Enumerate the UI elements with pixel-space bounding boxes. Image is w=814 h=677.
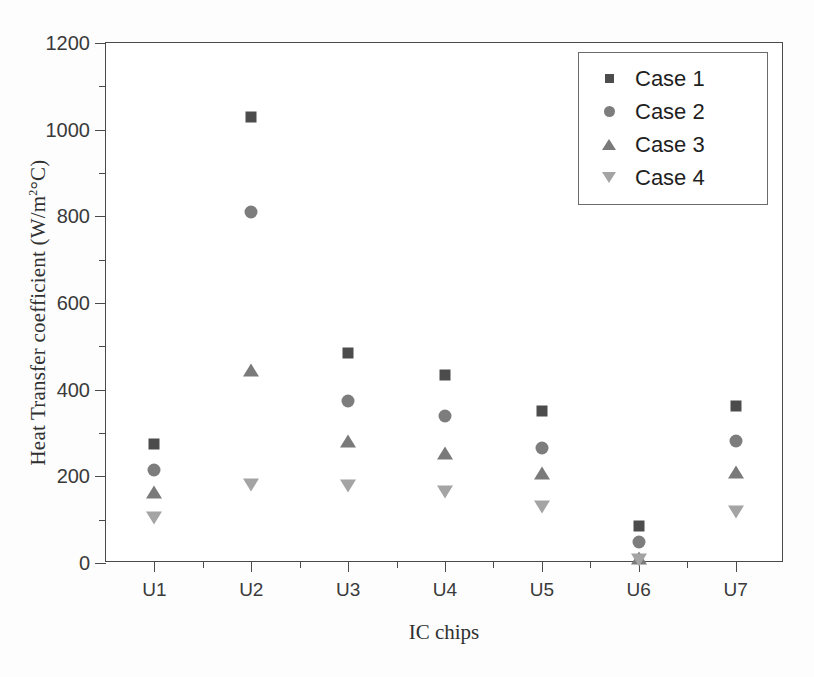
y-axis-minor-tick [99, 346, 106, 347]
data-point [633, 521, 644, 532]
y-axis-tick-label: 600 [57, 292, 90, 315]
y-axis-tick [95, 303, 106, 304]
y-axis-minor-tick [99, 520, 106, 521]
data-point [146, 511, 162, 524]
y-axis-title-main: Heat Transfer coefficient (W/m [26, 196, 50, 466]
x-axis-minor-tick [203, 561, 204, 568]
data-point [243, 479, 259, 492]
x-axis-tick-label-u3: U3 [336, 579, 360, 601]
data-point [437, 485, 453, 498]
data-point [149, 438, 160, 449]
data-point [148, 463, 161, 476]
y-axis-tick [95, 390, 106, 391]
data-point [632, 536, 645, 549]
legend-item-label: Case 4 [629, 165, 705, 191]
x-axis-tick-label-u7: U7 [723, 579, 747, 601]
legend-item-label: Case 3 [629, 132, 705, 158]
data-point [534, 500, 550, 513]
data-point [343, 347, 354, 358]
y-axis-tick-label: 0 [79, 552, 90, 575]
data-point [536, 406, 547, 417]
y-axis-tick [95, 130, 106, 131]
data-point [439, 409, 452, 422]
chart-figure: Heat Transfer coefficient (W/m2°C) 02004… [0, 0, 814, 677]
legend-item-label: Case 2 [629, 99, 705, 125]
y-axis-title-superscript: 2 [26, 190, 40, 196]
x-axis-tick-label-u4: U4 [433, 579, 457, 601]
data-point [729, 434, 742, 447]
y-axis-tick-label: 200 [57, 465, 90, 488]
x-axis-tick [445, 561, 446, 572]
legend: Case 1Case 2Case 3Case 4 [578, 52, 768, 205]
data-point [340, 479, 356, 492]
x-axis-minor-tick [590, 561, 591, 568]
y-axis-minor-tick [99, 433, 106, 434]
x-axis-tick [154, 561, 155, 572]
x-axis-tick [251, 561, 252, 572]
legend-item-case-1[interactable]: Case 1 [589, 62, 757, 95]
data-point [728, 466, 744, 479]
data-point [146, 485, 162, 498]
x-axis-tick-label-u1: U1 [142, 579, 166, 601]
legend-item-case-3[interactable]: Case 3 [589, 128, 757, 161]
x-axis-tick-label-u5: U5 [530, 579, 554, 601]
x-axis-tick [542, 561, 543, 572]
x-axis-tick [348, 561, 349, 572]
data-point [437, 446, 453, 459]
data-point [631, 553, 647, 566]
triangle-up-marker-icon [589, 139, 629, 150]
y-axis-tick-label: 400 [57, 378, 90, 401]
x-axis-tick-label-u6: U6 [627, 579, 651, 601]
x-axis-minor-tick [687, 561, 688, 568]
y-axis-minor-tick [99, 173, 106, 174]
x-axis-minor-tick [300, 561, 301, 568]
legend-item-case-2[interactable]: Case 2 [589, 95, 757, 128]
y-axis-tick [95, 563, 106, 564]
data-point [728, 505, 744, 518]
data-point [535, 442, 548, 455]
y-axis-tick-label: 1200 [46, 32, 91, 55]
x-axis-title: IC chips [105, 620, 783, 645]
legend-item-case-4[interactable]: Case 4 [589, 161, 757, 194]
legend-item-label: Case 1 [629, 66, 705, 92]
data-point [245, 206, 258, 219]
data-point [730, 400, 741, 411]
data-point [243, 364, 259, 377]
y-axis-title-tail: °C) [26, 160, 50, 190]
data-point [340, 434, 356, 447]
y-axis-minor-tick [99, 260, 106, 261]
x-axis-minor-tick [493, 561, 494, 568]
y-axis-tick-label: 800 [57, 205, 90, 228]
y-axis-tick-label: 1000 [46, 118, 91, 141]
square-marker-icon [589, 74, 629, 83]
triangle-down-marker-icon [589, 172, 629, 183]
y-axis-minor-tick [99, 86, 106, 87]
data-point [246, 111, 257, 122]
x-axis-minor-tick [397, 561, 398, 568]
data-point [342, 394, 355, 407]
x-axis-tick [736, 561, 737, 572]
data-point [534, 466, 550, 479]
circle-marker-icon [589, 106, 629, 117]
x-axis-tick-label-u2: U2 [239, 579, 263, 601]
y-axis-tick [95, 216, 106, 217]
data-point [440, 369, 451, 380]
y-axis-tick [95, 43, 106, 44]
y-axis-tick [95, 476, 106, 477]
